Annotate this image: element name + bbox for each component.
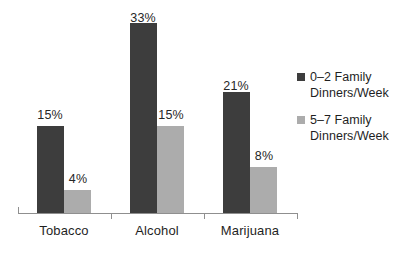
bar-value-marijuana-series1: 21% — [213, 79, 259, 93]
bar-tobacco-series2 — [64, 190, 91, 214]
x-axis-line — [18, 213, 298, 214]
x-axis-label-tobacco: Tobacco — [14, 223, 114, 238]
bar-marijuana-series2 — [250, 167, 277, 214]
bar-group-marijuana: 21% 8% — [204, 8, 297, 214]
x-axis-tick-1 — [111, 213, 112, 219]
legend-swatch-icon-series2 — [297, 116, 305, 124]
bar-chart: 15% 4% 33% 15% 21% 8% Tobacco Alcohol Ma… — [0, 0, 416, 263]
legend-item-series1: 0–2 Family Dinners/Week — [297, 70, 416, 101]
x-axis-tick-2 — [204, 213, 205, 219]
bar-alcohol-series2 — [157, 126, 184, 214]
bar-value-marijuana-series2: 8% — [241, 149, 287, 163]
bar-tobacco-series1 — [37, 126, 64, 214]
bar-group-alcohol: 33% 15% — [111, 8, 204, 214]
legend-label-series1-line2: Dinners/Week — [310, 86, 416, 102]
legend-swatch-icon-series1 — [297, 73, 305, 81]
bar-value-tobacco-series2: 4% — [55, 172, 101, 186]
x-axis-tick-start — [18, 207, 19, 214]
plot-area: 15% 4% 33% 15% 21% 8% — [18, 8, 298, 214]
legend-label-series1-line1: 0–2 Family — [310, 70, 372, 84]
x-axis-label-marijuana: Marijuana — [200, 223, 300, 238]
x-axis-tick-end — [297, 213, 298, 219]
legend: 0–2 Family Dinners/Week 5–7 Family Dinne… — [297, 70, 416, 156]
bar-value-tobacco-series1: 15% — [27, 108, 73, 122]
bar-value-alcohol-series1: 33% — [120, 11, 166, 25]
bar-group-tobacco: 15% 4% — [18, 8, 111, 214]
bar-value-alcohol-series2: 15% — [148, 108, 194, 122]
legend-label-series2-line2: Dinners/Week — [310, 129, 416, 145]
legend-label-series2-line1: 5–7 Family — [310, 113, 372, 127]
x-axis-label-alcohol: Alcohol — [107, 223, 207, 238]
legend-item-series2: 5–7 Family Dinners/Week — [297, 113, 416, 144]
